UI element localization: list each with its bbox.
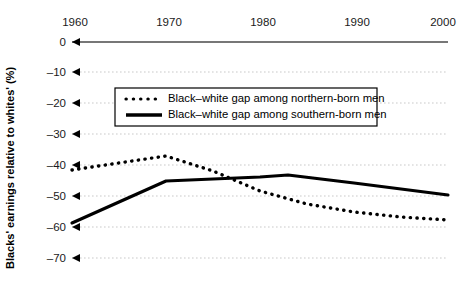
x-tick-label-1990: 1990 <box>344 16 370 28</box>
y-tick-label-minus60: –60 <box>47 221 66 233</box>
legend-label-southern-born: Black–white gap among southern-born men <box>168 108 387 120</box>
y-tick-label-0: 0 <box>60 36 66 48</box>
y-tick-label-minus70: –70 <box>47 252 66 264</box>
x-tick-label-1980: 1980 <box>250 16 276 28</box>
line-chart: 0 –10 –20 –30 –40 –50 –60 –70 1960 1970 … <box>0 0 458 295</box>
legend: Black–white gap among northern-born men … <box>115 88 387 126</box>
chart-background <box>0 0 458 295</box>
y-tick-label-minus30: –30 <box>47 128 66 140</box>
legend-label-northern-born: Black–white gap among northern-born men <box>168 92 385 104</box>
y-tick-label-minus10: –10 <box>47 66 66 78</box>
y-tick-label-minus20: –20 <box>47 97 66 109</box>
chart-container: 0 –10 –20 –30 –40 –50 –60 –70 1960 1970 … <box>0 0 458 295</box>
x-tick-label-2000: 2000 <box>430 16 456 28</box>
y-tick-label-minus40: –40 <box>47 159 66 171</box>
x-tick-label-1960: 1960 <box>62 16 88 28</box>
y-axis-title: Blacks' earnings relative to whites' (%) <box>4 67 16 269</box>
y-tick-label-minus50: –50 <box>47 190 66 202</box>
x-tick-label-1970: 1970 <box>156 16 182 28</box>
